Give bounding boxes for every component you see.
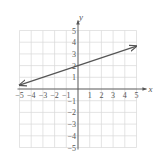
- y-tick-label: −2: [67, 108, 76, 117]
- y-tick-label: −3: [67, 120, 76, 129]
- x-axis-label: x: [148, 84, 153, 94]
- x-tick-label: 1: [88, 91, 92, 100]
- y-tick-label: −1: [67, 97, 76, 106]
- x-tick-label: −2: [50, 91, 59, 100]
- y-tick-label: 5: [72, 27, 76, 36]
- axes: [18, 21, 147, 150]
- x-tick-label: 5: [135, 91, 139, 100]
- x-tick-label: −4: [27, 91, 36, 100]
- x-tick-label: 2: [99, 91, 103, 100]
- y-tick-label: 4: [72, 38, 76, 47]
- y-tick-label: 1: [72, 73, 76, 82]
- y-tick-label: 3: [72, 50, 76, 59]
- tick-labels: −5−4−3−2−11234554321−1−2−3−4−5: [15, 27, 138, 153]
- y-axis-label: y: [78, 12, 83, 22]
- x-tick-label: 4: [123, 91, 127, 100]
- y-tick-label: −5: [67, 144, 76, 153]
- coordinate-plane: −5−4−3−2−11234554321−1−2−3−4−5 x y: [0, 0, 161, 160]
- x-tick-label: −3: [39, 91, 48, 100]
- x-tick-label: 3: [111, 91, 115, 100]
- x-tick-label: −5: [15, 91, 24, 100]
- y-tick-label: −4: [67, 132, 76, 141]
